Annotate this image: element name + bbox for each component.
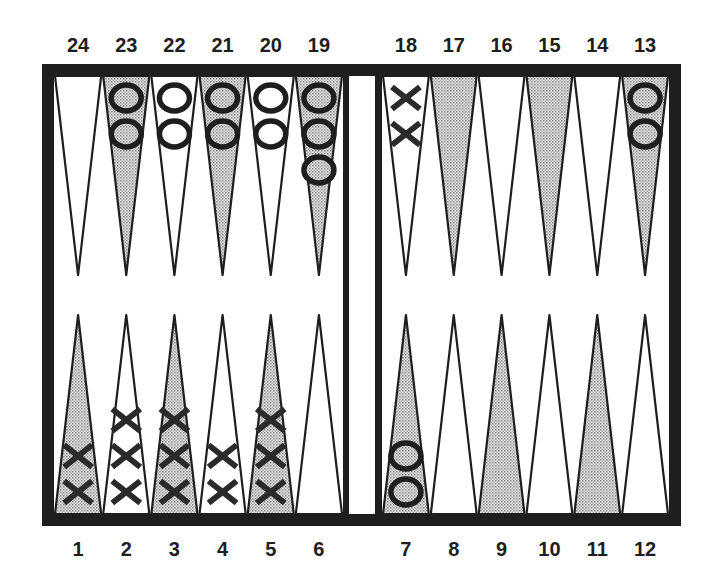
top-point-labels: 242322212019181716151413 (67, 34, 656, 56)
o-checker-point-7 (391, 479, 421, 505)
point-label-23: 23 (115, 34, 137, 56)
point-label-19: 19 (308, 34, 330, 56)
point-label-11: 11 (587, 538, 608, 560)
bar (349, 76, 375, 514)
point-label-3: 3 (169, 538, 180, 560)
point-label-21: 21 (211, 34, 233, 56)
bar-left-edge (343, 70, 349, 520)
o-checker-point-20 (256, 85, 286, 111)
point-label-4: 4 (217, 538, 229, 560)
o-checker-point-20 (256, 121, 286, 147)
point-label-10: 10 (538, 538, 560, 560)
o-checker-point-23 (111, 121, 141, 147)
o-checker-point-19 (304, 157, 334, 183)
o-checker-point-13 (630, 121, 660, 147)
point-label-17: 17 (443, 34, 465, 56)
point-label-22: 22 (163, 34, 185, 56)
o-checker-point-21 (208, 85, 238, 111)
o-checker-point-7 (391, 443, 421, 469)
point-label-2: 2 (121, 538, 132, 560)
o-checker-point-19 (304, 85, 334, 111)
point-label-9: 9 (496, 538, 507, 560)
point-label-15: 15 (538, 34, 560, 56)
board-frame (43, 65, 680, 525)
point-label-14: 14 (586, 34, 609, 56)
point-label-24: 24 (67, 34, 90, 56)
o-checker-point-22 (159, 85, 189, 111)
point-label-16: 16 (490, 34, 512, 56)
point-label-12: 12 (634, 538, 656, 560)
point-label-20: 20 (260, 34, 282, 56)
backgammon-board-diagram: 242322212019181716151413 123456789101112 (0, 0, 708, 587)
o-checker-point-19 (304, 121, 334, 147)
bar-right-edge (375, 70, 382, 520)
point-label-5: 5 (265, 538, 276, 560)
point-label-6: 6 (313, 538, 324, 560)
o-checker-point-13 (630, 85, 660, 111)
point-label-8: 8 (448, 538, 459, 560)
point-label-18: 18 (395, 34, 417, 56)
o-checker-point-22 (159, 121, 189, 147)
o-checker-point-21 (208, 121, 238, 147)
bottom-point-labels: 123456789101112 (73, 538, 657, 560)
point-label-7: 7 (400, 538, 411, 560)
point-label-1: 1 (73, 538, 84, 560)
o-checker-point-23 (111, 85, 141, 111)
point-label-13: 13 (634, 34, 656, 56)
